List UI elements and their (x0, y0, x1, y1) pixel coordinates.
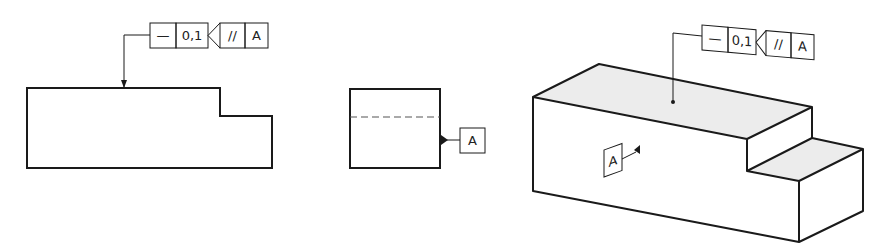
leader-dot-icon (671, 100, 675, 104)
front-view: — 0,1 // A (27, 23, 272, 168)
tolerance-value: 0,1 (182, 28, 203, 43)
datum-letter: A (468, 133, 477, 148)
isometric-view: — 0,1 // A A (533, 25, 863, 242)
leader-line (124, 35, 150, 87)
parallelism-symbol: // (228, 28, 237, 43)
feature-control-frame: — 0,1 // A (150, 23, 268, 48)
straightness-symbol: — (157, 28, 170, 43)
side-view: A (350, 89, 485, 168)
feature-control-frame-3d: — 0,1 // A (702, 25, 814, 60)
datum-letter-3d: A (609, 152, 619, 170)
straightness-symbol-3d: — (709, 31, 722, 47)
datum-box: A (460, 128, 485, 153)
datum-box-3d: A (604, 143, 622, 177)
tolerance-value-3d: 0,1 (732, 33, 753, 50)
arrow-icon (121, 80, 127, 88)
side-outline (350, 89, 440, 168)
parallelism-symbol-3d: // (774, 36, 783, 52)
tolerance-drawing: — 0,1 // A A — (0, 0, 896, 247)
datum-reference-3d: A (798, 38, 807, 54)
profile-outline (27, 88, 272, 168)
datum-triangle-icon (441, 135, 448, 145)
datum-reference: A (252, 28, 261, 43)
